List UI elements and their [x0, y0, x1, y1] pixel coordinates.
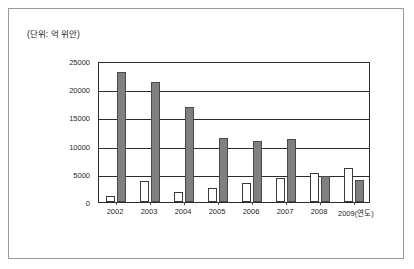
- bar-group: [201, 63, 235, 202]
- bar-group: [235, 63, 269, 202]
- category-tick: [116, 202, 117, 205]
- category-tick: [184, 202, 185, 205]
- y-axis-tick-labels: 0500010000150002000025000: [20, 62, 90, 203]
- category-tick: [218, 202, 219, 205]
- x-axis-tick-label: 2004: [175, 207, 192, 216]
- bar-white: [276, 178, 285, 202]
- bar-white: [310, 173, 319, 202]
- bar-gray: [321, 176, 330, 202]
- bar-group: [133, 63, 167, 202]
- bar-group: [303, 63, 337, 202]
- category-tick: [252, 202, 253, 205]
- plot-area: [98, 62, 370, 203]
- category-tick: [286, 202, 287, 205]
- bar-gray: [253, 141, 262, 202]
- bar-group: [337, 63, 371, 202]
- y-axis-tick-label: 5000: [73, 170, 90, 179]
- x-axis-tick-label: 2009(연도): [338, 207, 374, 218]
- bar-white: [106, 196, 115, 202]
- x-axis-tick-label: 2005: [209, 207, 226, 216]
- bar-white: [174, 192, 183, 202]
- bar-gray: [117, 72, 126, 202]
- bar-group: [167, 63, 201, 202]
- x-axis-tick-labels: 20022003200420052006200720082009(연도): [98, 207, 370, 225]
- x-axis-tick-label: 2003: [141, 207, 158, 216]
- x-axis-tick-label: 2002: [107, 207, 124, 216]
- bar-gray: [185, 107, 194, 202]
- bar-white: [344, 168, 353, 202]
- bar-gray: [287, 139, 296, 202]
- bar-gray: [355, 180, 364, 202]
- bar-group: [99, 63, 133, 202]
- y-axis-tick-label: 0: [86, 199, 90, 208]
- y-axis-tick-label: 20000: [69, 86, 90, 95]
- x-axis-tick-label: 2006: [243, 207, 260, 216]
- y-axis-tick-label: 15000: [69, 114, 90, 123]
- x-axis-tick-label: 2007: [277, 207, 294, 216]
- bar-white: [242, 183, 251, 202]
- y-axis-tick-label: 25000: [69, 58, 90, 67]
- unit-label: (단위: 억 위안): [27, 27, 80, 39]
- category-tick: [320, 202, 321, 205]
- bar-white: [140, 181, 149, 202]
- category-tick: [150, 202, 151, 205]
- x-axis-tick-label: 2008: [311, 207, 328, 216]
- y-axis-tick-label: 10000: [69, 142, 90, 151]
- bar-gray: [219, 138, 228, 202]
- bar-groups: [99, 63, 369, 202]
- chart-figure: (단위: 억 위안) 0500010000150002000025000 200…: [0, 0, 414, 269]
- bar-white: [208, 188, 217, 202]
- bar-gray: [151, 82, 160, 202]
- bar-group: [269, 63, 303, 202]
- category-tick: [354, 202, 355, 205]
